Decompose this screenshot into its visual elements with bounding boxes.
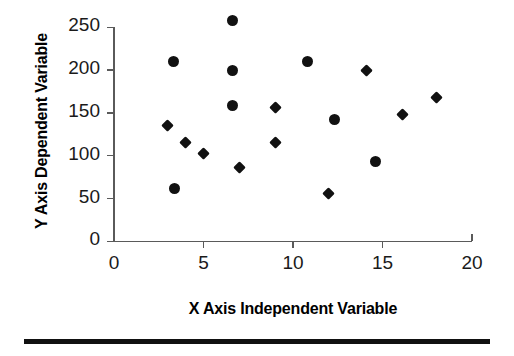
data-point-circle [370, 156, 381, 167]
x-tick-mark [203, 241, 205, 248]
y-tick-mark [107, 27, 114, 29]
y-tick-label: 150 [54, 100, 100, 122]
x-tick-label: 20 [449, 252, 495, 274]
data-point-circle [227, 65, 238, 76]
data-point-circle [168, 56, 179, 67]
data-point-circle [227, 100, 238, 111]
y-tick-label: 200 [54, 57, 100, 79]
x-tick-label: 5 [181, 252, 227, 274]
y-tick-label: 50 [54, 186, 100, 208]
y-axis-title: Y Axis Dependent Variable [33, 11, 51, 251]
y-tick-label: 250 [54, 14, 100, 36]
y-tick-mark [107, 69, 114, 71]
data-point-circle [227, 15, 238, 26]
y-tick-label: 100 [54, 143, 100, 165]
x-axis-title: X Axis Independent Variable [114, 300, 472, 318]
x-tick-label: 10 [270, 252, 316, 274]
bottom-divider-rule [24, 339, 490, 344]
x-tick-label: 0 [91, 252, 137, 274]
y-tick-mark [107, 112, 114, 114]
y-tick-label: 0 [54, 228, 100, 250]
x-tick-mark [382, 241, 384, 248]
x-tick-mark [292, 241, 294, 248]
data-point-circle [302, 56, 313, 67]
x-tick-label: 15 [360, 252, 406, 274]
y-tick-mark [107, 155, 114, 157]
data-point-circle [329, 114, 340, 125]
y-tick-mark [107, 198, 114, 200]
scatter-plot-figure: Y Axis Dependent Variable X Axis Indepen… [0, 0, 514, 356]
